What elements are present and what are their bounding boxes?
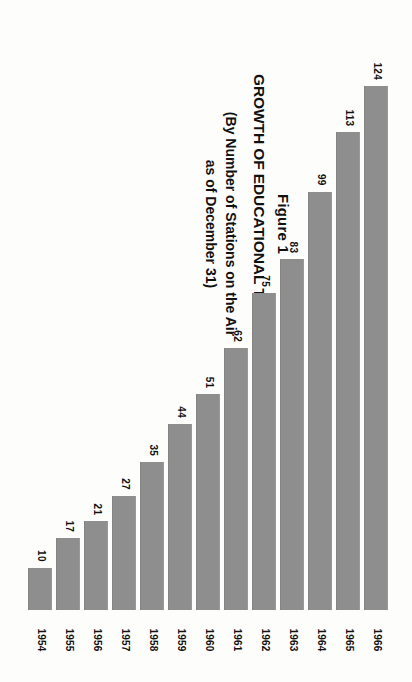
figure-canvas: Figure 1 GROWTH OF EDUCATIONAL TELEVISIO…: [0, 0, 412, 682]
bar-chart-plot-area: 1241966113196599196483196375196262196151…: [20, 24, 392, 664]
year-label-1954: 1954: [36, 616, 47, 664]
bar-1956: [84, 521, 108, 610]
bar-row: 621961: [226, 24, 248, 664]
year-label-1965: 1965: [344, 616, 355, 664]
bar-row: 831963: [282, 24, 304, 664]
bar-value-label-1957: 27: [120, 478, 131, 490]
bar-row: 351958: [142, 24, 164, 664]
bar-row: 171955: [58, 24, 80, 664]
bar-value-label-1958: 35: [148, 444, 159, 456]
bar-row: 511960: [198, 24, 220, 664]
bar-1957: [112, 496, 136, 610]
year-label-1957: 1957: [120, 616, 131, 664]
bar-value-label-1954: 10: [36, 550, 47, 562]
bar-value-label-1955: 17: [64, 520, 75, 532]
bar-row: 101954: [30, 24, 52, 664]
bar-value-label-1966: 124: [372, 62, 383, 80]
bar-1960: [196, 394, 220, 610]
year-label-1964: 1964: [316, 616, 327, 664]
year-label-1956: 1956: [92, 616, 103, 664]
bar-value-label-1956: 21: [92, 504, 103, 516]
rotated-page-wrapper: Figure 1 GROWTH OF EDUCATIONAL TELEVISIO…: [0, 0, 412, 682]
bar-1955: [56, 538, 80, 610]
bar-1966: [364, 86, 388, 610]
bar-value-label-1959: 44: [176, 406, 187, 418]
bar-row: 271957: [114, 24, 136, 664]
year-label-1959: 1959: [176, 616, 187, 664]
bar-1958: [140, 462, 164, 610]
bar-row: 751962: [254, 24, 276, 664]
bar-1965: [336, 132, 360, 610]
bar-1959: [168, 424, 192, 610]
bar-row: 991964: [310, 24, 332, 664]
year-label-1963: 1963: [288, 616, 299, 664]
bar-value-label-1960: 51: [204, 377, 215, 389]
bar-row: 1131965: [338, 24, 360, 664]
bar-row: 1241966: [366, 24, 388, 664]
bar-1961: [224, 348, 248, 610]
year-label-1955: 1955: [64, 616, 75, 664]
bar-value-label-1965: 113: [344, 109, 355, 126]
bar-1962: [252, 293, 276, 610]
year-label-1960: 1960: [204, 616, 215, 664]
bar-value-label-1962: 75: [260, 275, 271, 287]
year-label-1962: 1962: [260, 616, 271, 664]
year-label-1958: 1958: [148, 616, 159, 664]
bar-row: 441959: [170, 24, 192, 664]
bar-1954: [28, 568, 52, 610]
bar-value-label-1963: 83: [288, 242, 299, 254]
bar-row: 211956: [86, 24, 108, 664]
year-label-1966: 1966: [372, 616, 383, 664]
bar-value-label-1961: 62: [232, 330, 243, 342]
bar-1963: [280, 259, 304, 610]
year-label-1961: 1961: [232, 616, 243, 664]
bar-value-label-1964: 99: [316, 174, 327, 186]
bar-1964: [308, 192, 332, 610]
